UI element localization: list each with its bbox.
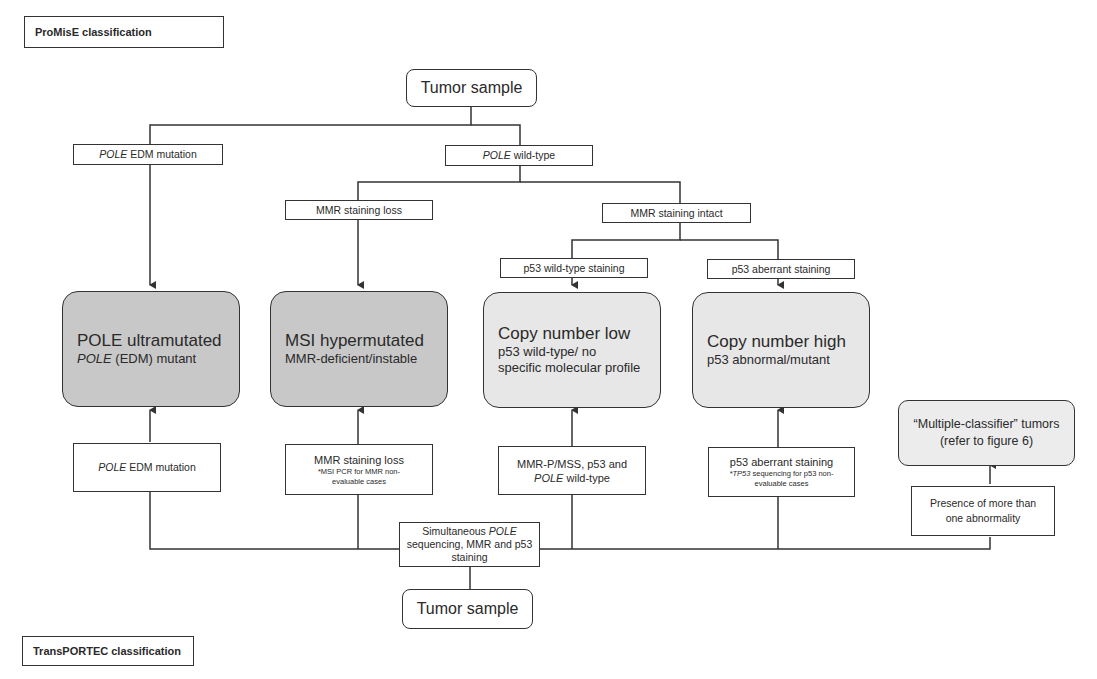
- p53-wildtype-staining-criterion: p53 wild-type staining: [500, 258, 648, 278]
- transportec-p53-aberrant-criterion: p53 aberrant staining *TP53 sequencing f…: [708, 447, 855, 497]
- mmr-staining-loss-criterion: MMR staining loss: [285, 200, 433, 220]
- pole-edm-mutation-criterion: POLE EDM mutation: [73, 144, 223, 165]
- simultaneous-testing-node: Simultaneous POLE sequencing, MMR and p5…: [399, 522, 540, 567]
- presence-multiple-abnormalities-criterion: Presence of more than one abnormality: [911, 486, 1055, 536]
- transportec-classification-title: TransPORTEC classification: [22, 636, 194, 666]
- promise-classification-title: ProMisE classification: [24, 16, 224, 48]
- promise-tumor-sample-node: Tumor sample: [406, 69, 537, 107]
- category-pole-ultramutated: POLE ultramutated POLE (EDM) mutant: [62, 291, 240, 407]
- pole-wildtype-criterion: POLE wild-type: [445, 145, 593, 166]
- transportec-mmr-staining-loss-criterion: MMR staining loss *MSI PCR for MMR non-e…: [285, 444, 433, 495]
- multiple-classifier-tumors-node: “Multiple-classifier” tumors (refer to f…: [898, 400, 1075, 466]
- transportec-tumor-sample-node: Tumor sample: [402, 589, 533, 629]
- category-copy-number-low: Copy number low p53 wild-type/ no specif…: [483, 292, 661, 408]
- transportec-mmr-p-mss-criterion: MMR-P/MSS, p53 and POLE wild-type: [498, 446, 646, 495]
- mmr-staining-intact-criterion: MMR staining intact: [602, 203, 751, 223]
- category-msi-hypermutated: MSI hypermutated MMR-deficient/instable: [270, 291, 448, 407]
- category-copy-number-high: Copy number high p53 abnormal/mutant: [692, 292, 870, 408]
- transportec-pole-edm-mutation-criterion: POLE EDM mutation: [73, 443, 221, 492]
- p53-aberrant-staining-criterion: p53 aberrant staining: [707, 259, 855, 279]
